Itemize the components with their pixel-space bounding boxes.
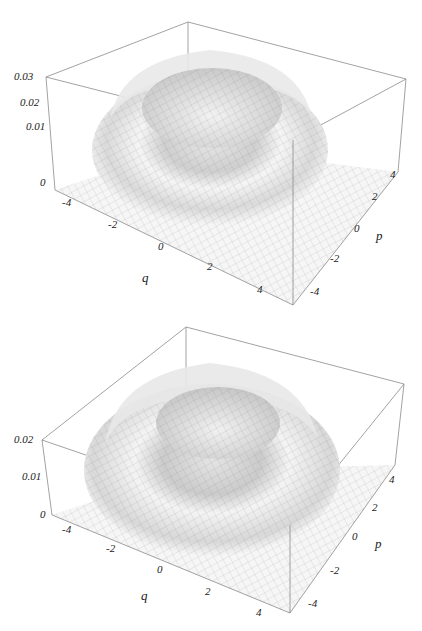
x-tick-label: 2	[205, 585, 211, 597]
surface-plot-bottom: 0.02 0.01 0 -4 -2 0 2 4 q 4 2 0 -2 -4 p	[0, 305, 422, 631]
x-axis-title: q	[142, 270, 149, 286]
z-tick-label: 0	[40, 508, 46, 520]
x-tick-label: -2	[108, 218, 117, 230]
y-tick-label: -2	[330, 252, 339, 264]
x-tick-label: -4	[62, 523, 71, 535]
y-tick-label: -4	[308, 597, 317, 609]
surface-plot-top: 0.03 0.02 0.01 0 -4 -2 0 2 4 q 4 2 0 -2 …	[0, 0, 422, 320]
y-tick-label: -2	[330, 564, 339, 576]
x-axis-title: q	[141, 588, 148, 604]
y-tick-label: 2	[372, 190, 378, 202]
z-tick-label: 0.02	[14, 433, 33, 445]
z-tick-label: 0.02	[20, 96, 39, 108]
x-tick-label: 4	[256, 606, 262, 618]
x-tick-label: -2	[106, 542, 115, 554]
y-tick-label: 0	[352, 530, 358, 542]
y-tick-label: -4	[310, 285, 319, 297]
surface-plot-top-canvas	[0, 0, 422, 320]
x-tick-label: 2	[207, 260, 213, 272]
z-tick-label: 0	[40, 176, 46, 188]
x-tick-label: -4	[62, 196, 71, 208]
y-tick-label: 4	[389, 473, 395, 485]
y-tick-label: 4	[390, 168, 396, 180]
x-tick-label: 4	[257, 283, 263, 295]
x-tick-label: 0	[158, 240, 164, 252]
y-tick-label: 0	[354, 222, 360, 234]
y-axis-title: p	[376, 228, 383, 244]
y-axis-title: p	[375, 536, 382, 552]
z-tick-label: 0.01	[26, 120, 45, 132]
z-tick-label: 0.03	[14, 70, 33, 82]
surface-plot-bottom-canvas	[0, 305, 422, 631]
z-tick-label: 0.01	[22, 470, 41, 482]
y-tick-label: 2	[372, 501, 378, 513]
x-tick-label: 0	[157, 563, 163, 575]
